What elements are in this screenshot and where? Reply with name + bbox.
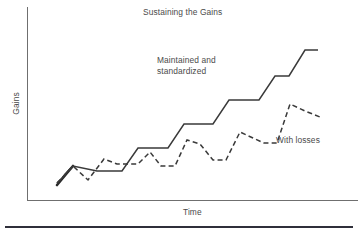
annotation-maintained-standardized: Maintained and standardized [157, 55, 216, 77]
chart-title: Sustaining the Gains [143, 7, 222, 18]
chart-canvas [0, 0, 358, 231]
annotation-maintained-line1: Maintained and [157, 55, 216, 66]
chart-figure: Sustaining the Gains Maintained and stan… [0, 0, 358, 231]
annotation-with-losses: With losses [276, 135, 320, 146]
y-axis-label: Gains [11, 84, 22, 124]
x-axis-label: Time [183, 207, 202, 218]
annotation-maintained-line2: standardized [157, 66, 216, 77]
